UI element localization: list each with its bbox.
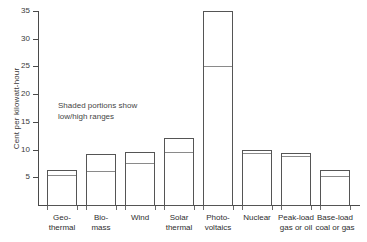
- x-tick-2-0: [125, 206, 126, 210]
- bar-2: [125, 152, 155, 206]
- x-tick-1-1: [116, 206, 117, 210]
- bar-4: [203, 11, 233, 206]
- x-tick-0-0: [47, 206, 48, 210]
- y-tick-10: [33, 150, 38, 151]
- x-tick-0-1: [77, 206, 78, 210]
- category-label-7: Base-loadcoal or gas: [299, 213, 367, 233]
- x-tick-3-0: [164, 206, 165, 210]
- y-tick-label-25: 25: [0, 62, 30, 70]
- y-tick-15: [33, 122, 38, 123]
- x-tick-7-0: [320, 206, 321, 210]
- y-tick-5: [33, 177, 38, 178]
- bar-5: [242, 150, 272, 206]
- category-label-1-line-1: mass: [65, 223, 137, 233]
- x-tick-4-1: [233, 206, 234, 210]
- bar-3: [164, 138, 194, 206]
- bar-range-divider-4: [204, 66, 232, 67]
- x-tick-3-1: [194, 206, 195, 210]
- y-tick-label-15: 15: [0, 118, 30, 126]
- bar-range-divider-2: [126, 163, 154, 164]
- bar-chart: Cent per kilowatt-hour 5101520253035 Sha…: [0, 0, 367, 242]
- bar-range-divider-5: [243, 153, 271, 154]
- bar-1: [86, 154, 116, 206]
- y-axis-line: [38, 11, 39, 205]
- x-tick-5-0: [242, 206, 243, 210]
- x-tick-1-0: [86, 206, 87, 210]
- x-tick-5-1: [272, 206, 273, 210]
- x-tick-2-1: [155, 206, 156, 210]
- bar-range-divider-3: [165, 152, 193, 153]
- y-tick-label-30: 30: [0, 35, 30, 43]
- y-tick-label-5: 5: [0, 173, 30, 181]
- y-tick-20: [33, 94, 38, 95]
- category-label-7-line-1: coal or gas: [299, 223, 367, 233]
- range-annotation: Shaded portions show low/high ranges: [58, 100, 137, 122]
- bar-range-divider-0: [48, 175, 76, 176]
- y-tick-label-20: 20: [0, 90, 30, 98]
- bar-6: [281, 153, 311, 206]
- y-tick-label-35: 35: [0, 7, 30, 15]
- x-tick-7-1: [350, 206, 351, 210]
- bar-range-divider-6: [282, 156, 310, 157]
- y-tick-25: [33, 66, 38, 67]
- category-label-7-line-0: Base-load: [299, 213, 367, 223]
- y-tick-35: [33, 11, 38, 12]
- y-tick-30: [33, 39, 38, 40]
- x-tick-6-1: [311, 206, 312, 210]
- bar-range-divider-7: [321, 176, 349, 177]
- y-tick-label-10: 10: [0, 146, 30, 154]
- category-label-4-line-1: voltaics: [182, 223, 254, 233]
- bar-range-divider-1: [87, 171, 115, 172]
- x-tick-4-0: [203, 206, 204, 210]
- x-tick-6-0: [281, 206, 282, 210]
